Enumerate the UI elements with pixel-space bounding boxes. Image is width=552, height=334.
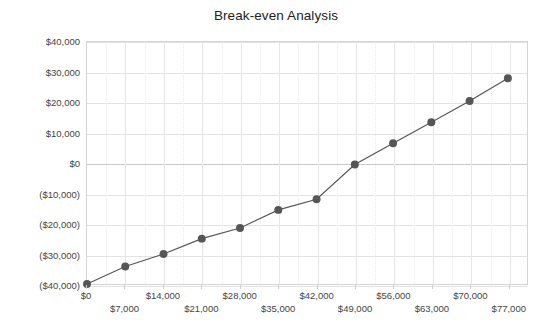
x-tick-label: $21,000 [184, 303, 218, 314]
x-tick-mark [355, 285, 356, 289]
x-tick-label: $56,000 [376, 290, 410, 301]
x-tick-mark [201, 285, 202, 289]
x-tick-label: $49,000 [338, 303, 372, 314]
x-tick-label: $28,000 [223, 290, 257, 301]
x-tick-label: $7,000 [110, 303, 139, 314]
x-tick-mark [393, 285, 394, 289]
x-tick-label: $42,000 [299, 290, 333, 301]
x-tick-label: $70,000 [453, 290, 487, 301]
x-tick-label: $0 [81, 290, 92, 301]
x-tick-label: $14,000 [146, 290, 180, 301]
x-tick-mark [509, 285, 510, 289]
x-axis: $0$7,000$14,000$21,000$28,000$35,000$42,… [0, 0, 552, 334]
x-tick-mark [470, 285, 471, 289]
x-tick-label: $35,000 [261, 303, 295, 314]
x-tick-label: $77,000 [492, 303, 526, 314]
x-tick-mark [240, 285, 241, 289]
x-tick-mark [278, 285, 279, 289]
x-tick-mark [124, 285, 125, 289]
chart-container: Break-even Analysis $40,000$30,000$20,00… [0, 0, 552, 334]
x-tick-mark [163, 285, 164, 289]
x-tick-mark [86, 285, 87, 289]
x-tick-mark [432, 285, 433, 289]
x-tick-mark [317, 285, 318, 289]
x-tick-label: $63,000 [415, 303, 449, 314]
